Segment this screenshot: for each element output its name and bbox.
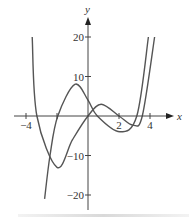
axes: xy−4242010−10−20 xyxy=(14,3,182,210)
y-axis-arrow-icon xyxy=(85,17,91,25)
y-tick-label: −10 xyxy=(67,150,85,162)
y-tick-label: 10 xyxy=(73,71,85,83)
bottom-divider xyxy=(18,214,189,217)
curves xyxy=(32,37,154,199)
chart: xy−4242010−10−20 xyxy=(0,0,189,221)
x-tick-label: 2 xyxy=(116,119,122,131)
x-tick-label: 4 xyxy=(147,119,153,131)
x-axis-arrow-icon xyxy=(166,113,174,119)
curve-2 xyxy=(45,37,149,199)
x-tick-label: −4 xyxy=(20,119,32,131)
y-tick-label: −20 xyxy=(67,189,85,201)
y-axis-label: y xyxy=(84,3,90,15)
y-tick-label: 20 xyxy=(73,31,85,43)
x-axis-label: x xyxy=(176,110,182,122)
